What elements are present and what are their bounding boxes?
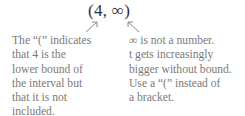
arrow-left-icon bbox=[84, 20, 100, 34]
note-line: the interval but bbox=[12, 77, 122, 91]
right-annotation: ∞ is not a number. t gets increasingly b… bbox=[129, 34, 245, 105]
note-line: The “(” indicates bbox=[12, 34, 122, 48]
note-line: bigger without bound. bbox=[129, 63, 245, 77]
note-line: ∞ is not a number. bbox=[129, 34, 245, 48]
note-line: included. bbox=[12, 105, 122, 116]
interval-notation: (4, ∞) bbox=[88, 1, 130, 21]
note-line: that it is not bbox=[12, 91, 122, 105]
note-line: t gets increasingly bbox=[129, 48, 245, 62]
note-line: lower bound of bbox=[12, 63, 122, 77]
note-line: that 4 is the bbox=[12, 48, 122, 62]
note-line: Use a “(” instead of bbox=[129, 77, 245, 91]
note-line: a bracket. bbox=[129, 91, 245, 105]
arrow-right-icon bbox=[125, 20, 141, 34]
left-annotation: The “(” indicates that 4 is the lower bo… bbox=[12, 34, 122, 116]
